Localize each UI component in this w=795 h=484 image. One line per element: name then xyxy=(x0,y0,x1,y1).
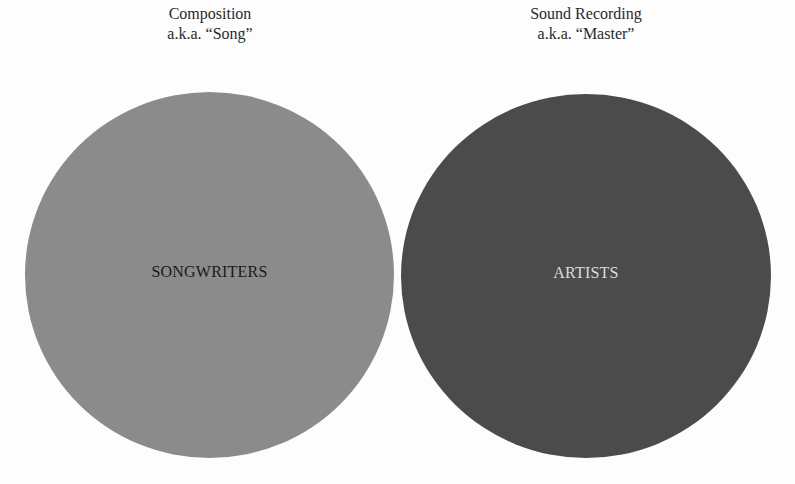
composition-caption: Composition a.k.a. “Song” xyxy=(60,4,360,44)
copyright-diagram: Composition a.k.a. “Song” Sound Recordin… xyxy=(0,0,795,484)
artists-label: ARTISTS xyxy=(553,264,618,282)
songwriters-circle: SONGWRITERS xyxy=(25,92,394,458)
sound-recording-title: Sound Recording xyxy=(436,4,736,24)
composition-aka: a.k.a. “Song” xyxy=(60,24,360,44)
sound-recording-caption: Sound Recording a.k.a. “Master” xyxy=(436,4,736,44)
artists-circle: ARTISTS xyxy=(401,94,771,458)
songwriters-label: SONGWRITERS xyxy=(152,263,268,281)
composition-title: Composition xyxy=(60,4,360,24)
sound-recording-aka: a.k.a. “Master” xyxy=(436,24,736,44)
